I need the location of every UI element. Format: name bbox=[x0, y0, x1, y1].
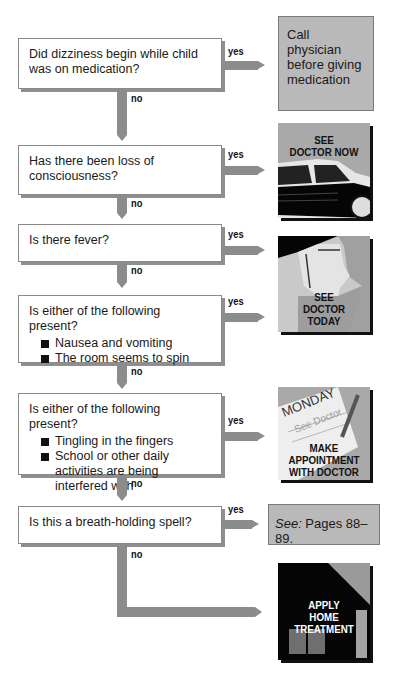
question-box-medication: Did dizziness begin while child was on m… bbox=[18, 38, 222, 89]
caption-line: APPOINTMENT bbox=[285, 454, 363, 466]
no-arrow bbox=[117, 89, 127, 135]
action-apply-home-treatment: APPLY HOME TREATMENT bbox=[278, 563, 370, 660]
action-see-doctor-now: SEE DOCTOR NOW bbox=[278, 123, 370, 218]
no-label: no bbox=[131, 477, 142, 489]
question-text: Is either of the following present? bbox=[29, 304, 160, 333]
no-arrow bbox=[117, 475, 127, 495]
caption-line: MAKE bbox=[285, 442, 363, 454]
no-arrow bbox=[117, 363, 127, 383]
car-icon bbox=[278, 123, 370, 218]
no-label: no bbox=[131, 197, 142, 209]
question-text: Has there been loss of consciousness? bbox=[29, 154, 154, 183]
question-text: Is either of the following present? bbox=[29, 402, 160, 431]
caption-line: SEE bbox=[285, 291, 363, 303]
yes-label: yes bbox=[228, 148, 244, 160]
caption-line: APPLY bbox=[285, 599, 363, 611]
no-label: no bbox=[131, 92, 142, 104]
action-see-doctor-today: SEE DOCTOR TODAY bbox=[278, 236, 370, 332]
square-bullet-icon bbox=[41, 340, 49, 348]
action-make-appointment: MONDAY See Doctor MAKE APPOINTMENT WITH … bbox=[278, 387, 370, 480]
caption-line: TREATMENT bbox=[285, 623, 363, 635]
question-box-nausea: Is either of the following present? Naus… bbox=[18, 295, 222, 363]
caption-line: DOCTOR bbox=[285, 303, 363, 315]
no-label: no bbox=[131, 365, 142, 377]
action-text: Call physician before giving medication bbox=[287, 27, 361, 87]
caption-line: TODAY bbox=[285, 315, 363, 327]
list-item: Tingling in the fingers bbox=[41, 434, 211, 449]
yes-arrow bbox=[222, 61, 258, 70]
bullet-text: School or other daily activities are bei… bbox=[55, 449, 169, 493]
bullet-text: Tingling in the fingers bbox=[55, 434, 173, 448]
yes-label: yes bbox=[228, 45, 244, 57]
see-label: See: bbox=[275, 516, 302, 531]
yes-arrow bbox=[222, 432, 258, 441]
action-see-pages: See: Pages 88–89. bbox=[268, 504, 380, 545]
caption-line: HOME bbox=[285, 611, 363, 623]
question-text: Did dizziness begin while child was on m… bbox=[29, 47, 198, 76]
square-bullet-icon bbox=[41, 355, 49, 363]
yes-label: yes bbox=[228, 295, 244, 307]
question-box-breath-holding: Is this a breath-holding spell? bbox=[18, 506, 222, 544]
yes-label: yes bbox=[228, 228, 244, 240]
no-arrow bbox=[117, 195, 127, 213]
yes-label: yes bbox=[228, 503, 244, 515]
bullet-text: Nausea and vomiting bbox=[55, 336, 172, 350]
question-box-consciousness: Has there been loss of consciousness? bbox=[18, 145, 222, 195]
action-call-physician: Call physician before giving medication bbox=[278, 16, 374, 111]
no-label: no bbox=[131, 264, 142, 276]
yes-label: yes bbox=[228, 414, 244, 426]
square-bullet-icon bbox=[41, 453, 49, 461]
question-text: Is there fever? bbox=[29, 233, 109, 247]
question-box-fever: Is there fever? bbox=[18, 224, 222, 262]
no-path-arrow bbox=[117, 607, 255, 617]
question-text: Is this a breath-holding spell? bbox=[29, 515, 192, 529]
question-box-tingling: Is either of the following present? Ting… bbox=[18, 393, 222, 475]
square-bullet-icon bbox=[41, 438, 49, 446]
list-item: Nausea and vomiting bbox=[41, 336, 211, 351]
yes-arrow bbox=[222, 313, 258, 322]
yes-arrow bbox=[222, 520, 252, 529]
no-label: no bbox=[131, 548, 142, 560]
yes-arrow bbox=[222, 166, 258, 175]
caption-line: WITH DOCTOR bbox=[285, 466, 363, 478]
no-arrow bbox=[117, 262, 127, 282]
yes-arrow bbox=[222, 246, 258, 255]
symptom-list: Nausea and vomiting The room seems to sp… bbox=[29, 336, 211, 366]
